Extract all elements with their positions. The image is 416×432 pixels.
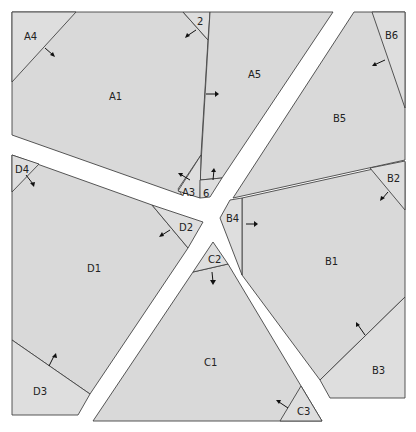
label-a4: A4	[24, 31, 37, 42]
label-a1: A1	[109, 91, 122, 102]
label-b4: B4	[226, 213, 239, 224]
label-d1: D1	[87, 263, 101, 274]
label-b3: B3	[372, 365, 385, 376]
label-c1: C1	[204, 357, 217, 368]
pattern-svg: A1 2 A3 A4 A5 6 B1 B2 B3 B4 B5 B6 C1 C2 …	[0, 0, 416, 432]
label-b5: B5	[333, 113, 346, 124]
label-a3: A3	[182, 187, 195, 198]
label-d3: D3	[33, 386, 47, 397]
label-a6: 6	[203, 188, 209, 199]
label-b6: B6	[385, 30, 398, 41]
label-a5: A5	[248, 69, 261, 80]
label-d4: D4	[15, 164, 29, 175]
label-a2: 2	[197, 16, 203, 27]
label-c3: C3	[297, 406, 310, 417]
label-d2: D2	[179, 222, 193, 233]
label-b2: B2	[387, 173, 400, 184]
pattern-diagram: A1 2 A3 A4 A5 6 B1 B2 B3 B4 B5 B6 C1 C2 …	[0, 0, 416, 432]
label-c2: C2	[208, 254, 221, 265]
label-b1: B1	[325, 256, 338, 267]
